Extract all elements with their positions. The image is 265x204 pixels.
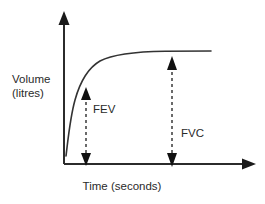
fvc-label: FVC xyxy=(181,127,204,139)
volume-time-curve xyxy=(66,51,211,156)
fev-label: FEV xyxy=(93,103,116,115)
spirometry-figure: FEV FVC Volume (litres) Time (seconds) xyxy=(0,0,265,204)
x-axis xyxy=(64,159,256,170)
y-axis-label-line2: (litres) xyxy=(12,87,44,99)
y-axis-label-line1: Volume xyxy=(12,73,50,85)
arrow-up-icon xyxy=(59,11,70,25)
spirometry-svg: FEV FVC Volume (litres) Time (seconds) xyxy=(0,0,265,204)
y-axis-label: Volume (litres) xyxy=(12,73,50,99)
fvc-annotation: FVC xyxy=(167,56,204,167)
fvc-arrow-head-up-icon xyxy=(167,56,177,70)
fev-arrow-head-up-icon xyxy=(81,87,91,100)
x-axis-label: Time (seconds) xyxy=(83,180,162,192)
arrow-right-icon xyxy=(242,159,256,170)
fev-annotation: FEV xyxy=(81,87,116,166)
